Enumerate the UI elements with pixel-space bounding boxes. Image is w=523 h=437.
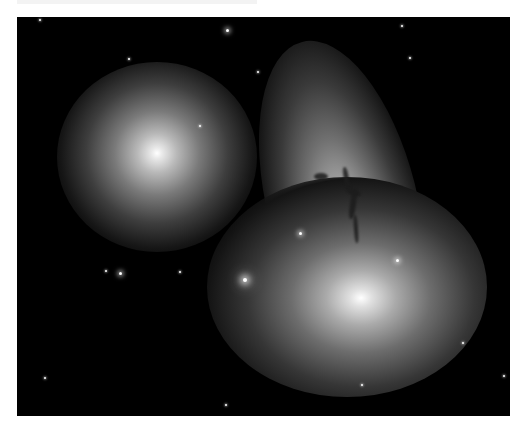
star (299, 232, 302, 235)
star (409, 57, 411, 59)
dust-lane (314, 173, 328, 180)
galaxy-photo (17, 17, 510, 416)
star (44, 377, 46, 379)
star (361, 384, 363, 386)
star (128, 58, 130, 60)
elliptical-galaxy-upper-left (57, 62, 257, 252)
star (257, 71, 259, 73)
star (225, 404, 227, 406)
elliptical-galaxy-lower-right (207, 177, 487, 397)
star (462, 342, 464, 344)
star (396, 259, 399, 262)
star (503, 375, 505, 377)
star (401, 25, 403, 27)
star (179, 271, 181, 273)
star (119, 272, 122, 275)
star (199, 125, 201, 127)
star (243, 278, 247, 282)
star (39, 19, 41, 21)
star (226, 29, 229, 32)
star (105, 270, 107, 272)
top-caption-strip (17, 0, 257, 4)
